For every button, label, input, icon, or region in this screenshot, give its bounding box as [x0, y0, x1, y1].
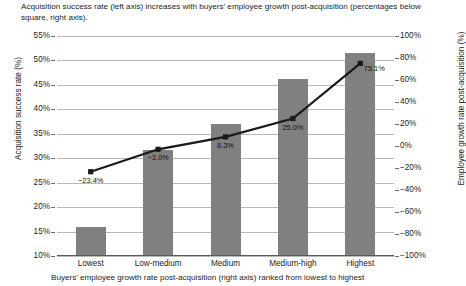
- right-axis-tick-mark: [395, 234, 399, 235]
- plot-area: −23.4%−3.0%8.3%25.0%75.1%: [57, 36, 394, 256]
- line-point-label: −23.4%: [78, 177, 103, 184]
- left-axis-title: Acquisition success rate (%): [14, 34, 23, 184]
- right-axis-tick-mark: [395, 146, 399, 147]
- left-axis-tick-label: 25%: [34, 179, 50, 187]
- line-marker: [290, 116, 295, 121]
- left-axis-tick-mark: [51, 158, 55, 159]
- right-axis-tick-label: 60%: [400, 76, 416, 84]
- right-axis-tick-label: 100%: [400, 32, 421, 40]
- right-axis-title: Employee growth rate post-acquisition (%…: [457, 19, 466, 199]
- right-axis-tick-mark: [395, 36, 399, 37]
- right-axis-tick-label: 40%: [400, 98, 416, 106]
- right-axis-tick-mark: [395, 190, 399, 191]
- right-axis-tick-label: −40%: [400, 186, 421, 194]
- left-axis-tick-label: 10%: [34, 252, 50, 260]
- right-axis-tick-mark: [395, 256, 399, 257]
- line-marker: [156, 147, 161, 152]
- category-label: Medium-high: [269, 259, 316, 268]
- right-axis-tick-mark: [395, 212, 399, 213]
- category-label: Lowest: [78, 259, 104, 268]
- left-axis-tick-mark: [51, 36, 55, 37]
- right-axis-tick-label: 20%: [400, 120, 416, 128]
- right-axis-tick-label: −60%: [400, 208, 421, 216]
- right-axis-tick-label: 0%: [400, 142, 412, 150]
- gridline: [57, 256, 394, 257]
- chart-title: Acquisition success rate (left axis) inc…: [21, 2, 441, 23]
- left-axis-tick-label: 15%: [34, 227, 50, 235]
- left-axis-tick-label: 40%: [34, 105, 50, 113]
- line-point-label: 75.1%: [364, 65, 385, 72]
- category-axis: LowestLow-mediumMediumMedium-highHighest: [57, 259, 394, 273]
- category-label: Medium: [211, 259, 240, 268]
- left-axis-tick-mark: [51, 207, 55, 208]
- right-axis-tick-mark: [395, 124, 399, 125]
- right-axis-tick-label: 80%: [400, 54, 416, 62]
- left-axis-tick-label: 30%: [34, 154, 50, 162]
- right-axis-tick-mark: [395, 80, 399, 81]
- right-axis-tick-mark: [395, 168, 399, 169]
- line-marker: [358, 61, 363, 66]
- left-axis-tick-mark: [51, 183, 55, 184]
- left-axis-tick-label: 50%: [34, 56, 50, 64]
- left-axis-tick-mark: [51, 85, 55, 86]
- right-axis-tick-label: −20%: [400, 164, 421, 172]
- right-axis-tick-label: −100%: [400, 252, 426, 260]
- right-axis-tick-mark: [395, 102, 399, 103]
- left-axis-tick-mark: [51, 109, 55, 110]
- left-axis-tick-mark: [51, 134, 55, 135]
- x-axis-caption: Buyers' employee growth rate post-acquis…: [51, 273, 364, 282]
- left-axis-tick-mark: [51, 232, 55, 233]
- right-axis-tick-group: −100%−80%−60%−40%−20%0%20%40%60%80%100%: [400, 36, 440, 256]
- x-axis-line: [57, 255, 394, 256]
- left-axis-tick-label: 35%: [34, 130, 50, 138]
- line-path: [91, 63, 361, 171]
- line-point-label: 25.0%: [282, 124, 303, 131]
- left-axis-tick-mark: [51, 256, 55, 257]
- line-marker: [88, 169, 93, 174]
- line-point-label: −3.0%: [148, 154, 169, 161]
- line-marker: [223, 134, 228, 139]
- left-axis-tick-label: 55%: [34, 32, 50, 40]
- left-axis-tick-label: 20%: [34, 203, 50, 211]
- left-axis-tick-label: 45%: [34, 81, 50, 89]
- left-axis-tick-mark: [51, 60, 55, 61]
- line-point-label: 8.3%: [217, 142, 234, 149]
- right-axis-tick-mark: [395, 58, 399, 59]
- category-label: Highest: [346, 259, 374, 268]
- category-label: Low-medium: [135, 259, 182, 268]
- right-axis-tick-label: −80%: [400, 230, 421, 238]
